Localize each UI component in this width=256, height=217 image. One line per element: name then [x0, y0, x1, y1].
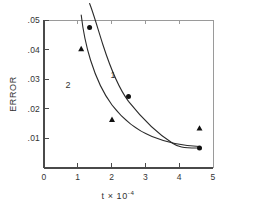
series-1-curve — [90, 4, 200, 149]
series-2-point — [197, 125, 203, 130]
chart-figure: .05 .04 .03 .02 .01 0 1 2 3 4 5 ERROR t … — [0, 0, 256, 217]
error-vs-t-line-chart: .05 .04 .03 .02 .01 0 1 2 3 4 5 ERROR t … — [0, 0, 256, 217]
series-2-point — [109, 117, 115, 122]
x-tick-label-3: 3 — [143, 172, 148, 182]
y-axis-title: ERROR — [8, 76, 18, 112]
x-axis-title: t × 10-4 — [101, 189, 134, 201]
x-tick-label-1: 1 — [75, 172, 80, 182]
x-axis-title-exponent: -4 — [128, 189, 135, 196]
series-1-label: 1 — [110, 70, 115, 80]
series-2-point — [78, 46, 84, 51]
series-1-point — [87, 25, 92, 30]
y-tick-label-05: .05 — [28, 15, 40, 25]
series-1-point — [197, 145, 202, 150]
y-tick-label-02: .02 — [28, 104, 40, 114]
series-2-label: 2 — [65, 80, 70, 90]
y-tick-label-01: .01 — [28, 133, 40, 143]
x-tick-label-5: 5 — [211, 172, 216, 182]
y-tick-label-04: .04 — [28, 45, 40, 55]
x-tick-label-0: 0 — [42, 172, 47, 182]
x-tick-label-2: 2 — [109, 172, 114, 182]
series-2-curve — [81, 15, 199, 147]
series-1-point — [126, 94, 131, 99]
x-tick-label-4: 4 — [177, 172, 182, 182]
x-axis-title-base: t × 10 — [101, 191, 127, 201]
y-tick-label-03: .03 — [28, 74, 40, 84]
